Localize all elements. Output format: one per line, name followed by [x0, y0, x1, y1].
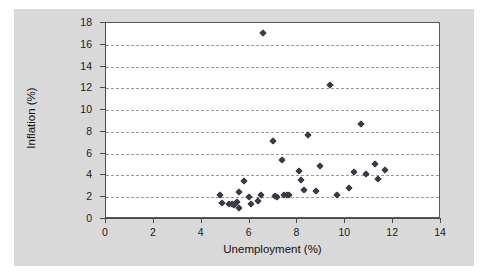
gridline-y-16 [106, 45, 439, 46]
x-tick-mark-10 [344, 218, 345, 223]
x-tick-label-4: 4 [186, 227, 216, 238]
gridline-y-12 [106, 88, 439, 89]
x-tick-label-12: 12 [377, 227, 407, 238]
gridline-y-10 [106, 110, 439, 111]
x-tick-label-10: 10 [329, 227, 359, 238]
y-tick-label-12: 12 [52, 82, 92, 93]
y-tick-mark-6 [100, 153, 105, 154]
x-tick-label-8: 8 [281, 227, 311, 238]
gridline-y-6 [106, 154, 439, 155]
y-tick-mark-2 [100, 196, 105, 197]
x-tick-label-2: 2 [138, 227, 168, 238]
y-tick-label-8: 8 [52, 126, 92, 137]
y-tick-label-4: 4 [52, 169, 92, 180]
gridline-y-14 [106, 67, 439, 68]
y-tick-mark-14 [100, 66, 105, 67]
y-tick-mark-18 [100, 22, 105, 23]
y-tick-mark-8 [100, 131, 105, 132]
x-tick-label-6: 6 [234, 227, 264, 238]
y-tick-mark-10 [100, 109, 105, 110]
x-tick-mark-12 [392, 218, 393, 223]
y-axis-line [105, 22, 106, 219]
x-tick-mark-8 [296, 218, 297, 223]
y-tick-label-6: 6 [52, 148, 92, 159]
x-tick-label-0: 0 [90, 227, 120, 238]
y-tick-label-16: 16 [52, 39, 92, 50]
y-axis-label: Inflation (%) [25, 48, 37, 188]
y-tick-mark-4 [100, 174, 105, 175]
x-axis-line [105, 218, 441, 219]
y-tick-mark-16 [100, 44, 105, 45]
y-tick-label-18: 18 [52, 17, 92, 28]
y-tick-label-2: 2 [52, 191, 92, 202]
plot-area [105, 22, 440, 218]
x-tick-mark-14 [440, 218, 441, 223]
x-tick-mark-4 [201, 218, 202, 223]
gridline-y-4 [106, 175, 439, 176]
x-axis-label: Unemployment (%) [105, 243, 440, 255]
x-tick-mark-0 [105, 218, 106, 223]
x-tick-mark-6 [249, 218, 250, 223]
x-tick-label-14: 14 [425, 227, 455, 238]
gridline-y-8 [106, 132, 439, 133]
y-tick-label-0: 0 [52, 213, 92, 224]
x-tick-mark-2 [153, 218, 154, 223]
y-tick-label-10: 10 [52, 104, 92, 115]
y-tick-mark-12 [100, 87, 105, 88]
scatter-plot-figure: 024681012141618 02468101214 Unemployment… [0, 0, 488, 275]
y-tick-label-14: 14 [52, 61, 92, 72]
